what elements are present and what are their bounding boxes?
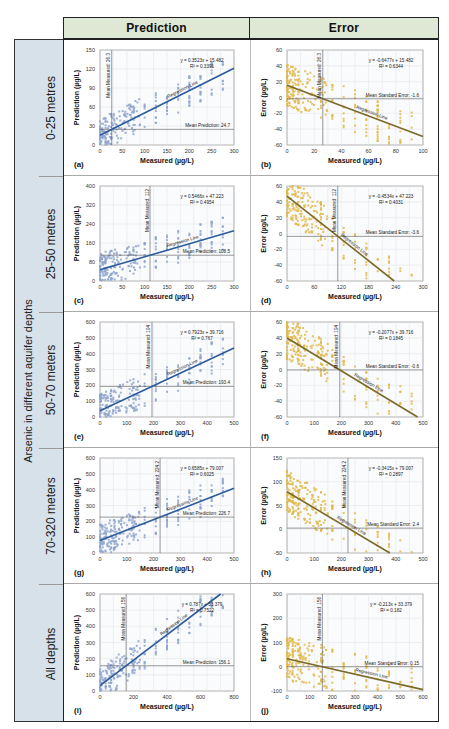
svg-text:500: 500 (229, 556, 238, 562)
svg-text:Mean Standard Error: -1.6: Mean Standard Error: -1.6 (366, 93, 420, 98)
svg-text:-40: -40 (274, 398, 282, 404)
svg-text:0: 0 (92, 278, 95, 284)
svg-text:0: 0 (285, 420, 288, 426)
svg-text:100: 100 (86, 398, 95, 404)
svg-text:Mean Prediction: 156.1: Mean Prediction: 156.1 (183, 660, 231, 665)
svg-text:0: 0 (279, 526, 282, 532)
svg-text:20: 20 (276, 79, 282, 85)
svg-text:600: 600 (196, 694, 205, 700)
svg-text:100: 100 (273, 479, 282, 485)
svg-text:300: 300 (86, 367, 95, 373)
svg-text:R² = 0.1845: R² = 0.1845 (379, 336, 404, 341)
svg-text:200: 200 (86, 382, 95, 388)
svg-text:400: 400 (86, 183, 95, 189)
svg-text:Mean Prediction: 108.5: Mean Prediction: 108.5 (183, 249, 231, 254)
svg-text:80: 80 (393, 148, 399, 154)
svg-text:200: 200 (273, 615, 282, 621)
svg-text:-20: -20 (274, 246, 282, 252)
svg-text:(b): (b) (261, 160, 272, 169)
svg-text:20: 20 (276, 351, 282, 357)
svg-text:300: 300 (273, 591, 282, 597)
svg-text:200: 200 (337, 556, 346, 562)
scatter-plot-d: y = -0.4534x + 47.223R² = 0.4031Mean Sta… (251, 176, 439, 312)
svg-text:60: 60 (276, 319, 282, 325)
figure-frame: Prediction Error Arsenic in different aq… (14, 17, 439, 722)
svg-text:300: 300 (229, 148, 238, 154)
svg-text:Mean Measured: 156: Mean Measured: 156 (317, 597, 322, 641)
svg-text:y = -0.4534x + 47.223: y = -0.4534x + 47.223 (369, 194, 414, 199)
svg-text:Measured (µg/L): Measured (µg/L) (328, 703, 382, 711)
svg-text:500: 500 (418, 556, 427, 562)
svg-text:Measured (µg/L): Measured (µg/L) (328, 293, 382, 301)
row-label-all: All depths (39, 584, 63, 723)
svg-text:R² = 0.767: R² = 0.767 (191, 336, 213, 341)
svg-text:y = 0.3523x + 15.482: y = 0.3523x + 15.482 (180, 58, 224, 63)
svg-text:Error (µg/L): Error (µg/L) (260, 486, 268, 524)
svg-text:Measured (µg/L): Measured (µg/L) (328, 429, 382, 437)
svg-text:0: 0 (98, 556, 101, 562)
svg-text:(d): (d) (261, 296, 272, 305)
svg-text:100: 100 (86, 534, 95, 540)
svg-text:y = 0.787x + 33.379: y = 0.787x + 33.379 (182, 602, 223, 607)
svg-text:R² = 0.4031: R² = 0.4031 (379, 200, 404, 205)
svg-text:Mean Measured: 224.2: Mean Measured: 224.2 (342, 461, 347, 509)
svg-text:200: 200 (328, 694, 337, 700)
svg-text:30: 30 (89, 123, 95, 129)
svg-text:400: 400 (86, 351, 95, 357)
svg-text:-60: -60 (274, 278, 282, 284)
svg-text:-60: -60 (274, 142, 282, 148)
svg-text:0: 0 (98, 694, 101, 700)
svg-text:800: 800 (229, 694, 238, 700)
svg-text:60: 60 (276, 47, 282, 53)
scatter-plot-i: y = 0.787x + 33.379R² = 0.7522Mean Predi… (64, 584, 250, 722)
svg-text:Measured (µg/L): Measured (µg/L) (140, 565, 194, 573)
svg-text:Mean Measured: 194: Mean Measured: 194 (146, 325, 151, 369)
svg-text:50: 50 (119, 148, 125, 154)
svg-text:Prediction (µg/L): Prediction (µg/L) (73, 70, 81, 125)
svg-text:150: 150 (86, 47, 95, 53)
svg-text:150: 150 (162, 284, 171, 290)
svg-text:(j): (j) (261, 706, 269, 715)
svg-text:Mean Standard Error: -3.6: Mean Standard Error: -3.6 (366, 230, 420, 235)
svg-text:(i): (i) (74, 706, 82, 715)
svg-text:0: 0 (279, 664, 282, 670)
svg-text:Mean Prediction: 193.4: Mean Prediction: 193.4 (183, 380, 231, 385)
scatter-plot-h: y = -0.3415x + 79.007R² = 0.2897Mean Sta… (251, 448, 439, 584)
svg-text:40: 40 (276, 199, 282, 205)
svg-text:200: 200 (185, 284, 194, 290)
row-label-25-50: 25-50 metres (39, 176, 63, 312)
svg-text:400: 400 (391, 556, 400, 562)
svg-text:R² = 0.2897: R² = 0.2897 (379, 472, 404, 477)
svg-text:Measured (µg/L): Measured (µg/L) (140, 429, 194, 437)
depth-sidebar: Arsenic in different aquifer depths 0-25… (14, 39, 64, 722)
svg-text:y = -0.213x + 33.379: y = -0.213x + 33.379 (370, 602, 413, 607)
svg-text:150: 150 (162, 148, 171, 154)
row-label-50-70: 50-70 meters (39, 312, 63, 448)
svg-text:300: 300 (86, 503, 95, 509)
svg-text:Mean Standard Error: 2.4: Mean Standard Error: 2.4 (367, 522, 419, 527)
svg-text:0: 0 (98, 148, 101, 154)
svg-text:R² = 0.6025: R² = 0.6025 (190, 472, 215, 477)
svg-text:Error (µg/L): Error (µg/L) (260, 78, 268, 116)
svg-text:-20: -20 (274, 382, 282, 388)
svg-text:60: 60 (276, 183, 282, 189)
svg-text:400: 400 (86, 623, 95, 629)
svg-text:100: 100 (122, 556, 131, 562)
scatter-plot-e: y = 0.7923x + 39.716R² = 0.767Mean Predi… (64, 312, 250, 448)
svg-text:0: 0 (98, 284, 101, 290)
svg-text:60: 60 (311, 284, 317, 290)
scatter-plot-b: y = -0.6477x + 15.482R² = 0.6344Mean Sta… (251, 40, 439, 176)
svg-text:(f): (f) (261, 432, 269, 441)
svg-text:400: 400 (162, 694, 171, 700)
svg-text:400: 400 (203, 556, 212, 562)
svg-text:-40: -40 (274, 126, 282, 132)
svg-text:120: 120 (337, 284, 346, 290)
svg-text:320: 320 (86, 202, 95, 208)
svg-text:250: 250 (207, 284, 216, 290)
svg-text:100: 100 (140, 284, 149, 290)
svg-text:Mean Prediction: 226.7: Mean Prediction: 226.7 (183, 511, 231, 516)
svg-text:(c): (c) (74, 296, 84, 305)
chart-grid: y = 0.3523x + 15.482R² = 0.3391Mean Pred… (63, 39, 439, 722)
svg-text:200: 200 (129, 694, 138, 700)
svg-text:400: 400 (391, 420, 400, 426)
